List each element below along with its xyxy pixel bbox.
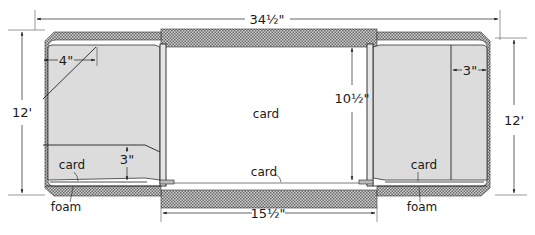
dim-center-height: 10½" <box>334 48 369 180</box>
svg-text:34½": 34½" <box>249 12 284 27</box>
svg-text:3": 3" <box>120 152 134 167</box>
label-bottom-card: card <box>251 165 281 182</box>
svg-text:10½": 10½" <box>334 91 369 106</box>
svg-text:card: card <box>251 165 277 179</box>
dim-right-height: 12' <box>495 38 527 195</box>
svg-text:12': 12' <box>12 105 32 120</box>
svg-text:foam: foam <box>51 200 82 214</box>
diagram-canvas: 34½" 12' 12' 10½" 4" 3" 3" <box>0 0 535 235</box>
dim-center-bottom-width: 15½" <box>161 206 377 222</box>
svg-text:4": 4" <box>59 53 73 68</box>
right-post <box>367 44 373 186</box>
svg-text:card: card <box>59 158 85 172</box>
svg-text:12': 12' <box>504 113 524 128</box>
svg-text:card: card <box>411 158 437 172</box>
box-section-diagram: 34½" 12' 12' 10½" 4" 3" 3" <box>0 0 535 235</box>
shell-top-center <box>161 29 377 47</box>
left-post <box>160 44 166 186</box>
dim-left-height: 12' <box>8 30 45 195</box>
svg-text:3": 3" <box>463 63 477 78</box>
svg-text:foam: foam <box>407 200 438 214</box>
label-center-card: card <box>253 107 279 121</box>
svg-text:15½": 15½" <box>250 206 285 221</box>
